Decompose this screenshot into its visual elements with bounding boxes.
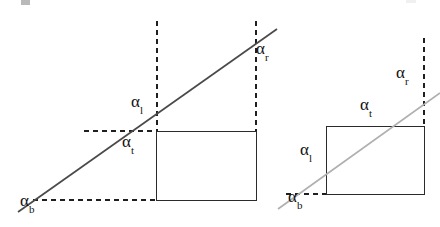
alpha-subscript-b: b [297, 199, 303, 211]
alpha-glyph: α [122, 132, 131, 151]
left-label-alpha-r: αr [256, 40, 269, 60]
right-label-alpha-r: αr [396, 64, 409, 84]
alpha-subscript-l: l [309, 152, 312, 164]
alpha-glyph: α [396, 63, 405, 82]
figure-container: αb αl αt αr αb αl αt αr [0, 0, 440, 227]
alpha-subscript-l: l [140, 104, 143, 116]
top-right-scan-artifact [406, 0, 416, 3]
alpha-glyph: α [300, 140, 309, 159]
diagram-canvas [0, 0, 440, 227]
right-rectangle [327, 127, 425, 195]
alpha-glyph: α [360, 95, 369, 114]
left-diagonal-ray [18, 29, 277, 212]
right-label-alpha-b: αb [288, 188, 302, 208]
alpha-subscript-r: r [265, 51, 269, 63]
alpha-glyph: α [131, 92, 140, 111]
top-left-scan-artifact [21, 0, 30, 5]
right-panel-group [278, 38, 440, 209]
left-label-alpha-l: αl [131, 93, 143, 113]
right-label-alpha-l: αl [300, 141, 312, 161]
alpha-subscript-b: b [29, 203, 35, 215]
alpha-subscript-r: r [405, 75, 409, 87]
alpha-glyph: α [20, 191, 29, 210]
alpha-glyph: α [288, 187, 297, 206]
left-label-alpha-b: αb [20, 192, 34, 212]
alpha-glyph: α [256, 39, 265, 58]
alpha-subscript-t: t [131, 144, 134, 156]
alpha-subscript-t: t [369, 107, 372, 119]
left-label-alpha-t: αt [122, 133, 134, 153]
left-panel-group [18, 21, 277, 212]
left-rectangle [157, 132, 257, 201]
right-label-alpha-t: αt [360, 96, 372, 116]
